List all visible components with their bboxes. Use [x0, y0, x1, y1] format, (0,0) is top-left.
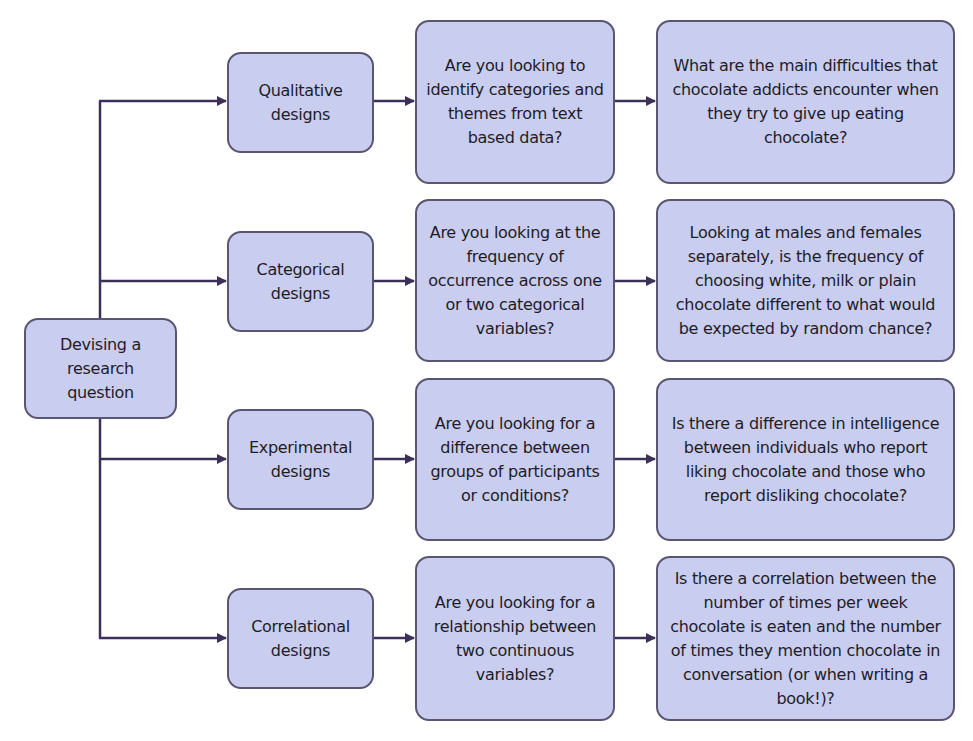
design-label: Categorical designs — [246, 258, 356, 306]
design-label: Experimental designs — [241, 436, 361, 484]
question-text: Are you looking for a difference between… — [425, 412, 605, 508]
example-text: Is there a correlation between the numbe… — [666, 567, 945, 711]
question-text: Are you looking to identify categories a… — [425, 54, 605, 150]
question-text: Are you looking for a relationship betwe… — [425, 591, 605, 687]
example-node-correlational: Is there a correlation between the numbe… — [656, 556, 955, 721]
example-text: Is there a difference in intelligence be… — [666, 412, 945, 508]
example-node-experimental: Is there a difference in intelligence be… — [656, 378, 955, 541]
example-text: Looking at males and females separately,… — [666, 221, 945, 341]
design-label: Qualitative designs — [246, 79, 356, 127]
question-node-correlational: Are you looking for a relationship betwe… — [415, 556, 615, 721]
root-node-label: Devising a research question — [46, 333, 156, 405]
design-node-correlational: Correlational designs — [227, 588, 374, 689]
question-text: Are you looking at the frequency of occu… — [425, 221, 605, 341]
design-node-categorical: Categorical designs — [227, 231, 374, 332]
example-node-qualitative: What are the main difficulties that choc… — [656, 20, 955, 184]
question-node-qualitative: Are you looking to identify categories a… — [415, 20, 615, 184]
example-node-categorical: Looking at males and females separately,… — [656, 199, 955, 362]
question-node-experimental: Are you looking for a difference between… — [415, 378, 615, 541]
design-node-experimental: Experimental designs — [227, 409, 374, 510]
example-text: What are the main difficulties that choc… — [666, 54, 945, 150]
question-node-categorical: Are you looking at the frequency of occu… — [415, 199, 615, 362]
root-node-devising-research-question: Devising a research question — [24, 318, 177, 419]
design-label: Correlational designs — [238, 615, 363, 663]
design-node-qualitative: Qualitative designs — [227, 52, 374, 153]
